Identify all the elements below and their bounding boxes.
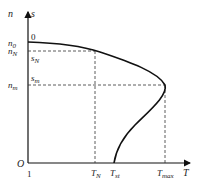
s-one-label: 1 (27, 169, 32, 179)
svg-text:Tst: Tst (110, 168, 121, 180)
y-axis-label-n: n (8, 8, 13, 19)
x-axis-label: T (183, 167, 190, 178)
origin-label: O (17, 158, 24, 169)
svg-text:0: 0 (31, 32, 36, 42)
diagram-canvas: n s T O 1 n0 0 nN sN nm sm TN Tst Tmax (0, 0, 197, 190)
x-tick-Tst: Tst (110, 168, 121, 180)
dashed-guides (28, 51, 165, 163)
x-tick-TN: TN (91, 168, 101, 180)
svg-text:sm: sm (31, 73, 40, 85)
svg-text:sN: sN (31, 53, 40, 65)
torque-speed-diagram: n s T O 1 n0 0 nN sN nm sm TN Tst Tmax (0, 0, 197, 190)
x-tick-Tmax: Tmax (157, 168, 175, 180)
characteristic-curve (28, 42, 165, 163)
y-axis-label-s: s (31, 8, 35, 19)
svg-text:nm: nm (8, 80, 18, 92)
y-tick-nm: nm sm (8, 73, 40, 92)
svg-text:Tmax: Tmax (157, 168, 175, 180)
svg-text:TN: TN (91, 168, 101, 180)
